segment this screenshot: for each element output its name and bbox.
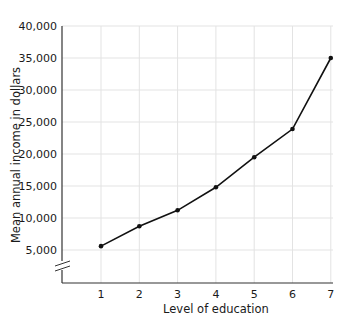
x-tick-label: 3 xyxy=(174,288,181,301)
y-tick-label: 35,000 xyxy=(19,52,58,65)
axis-break-icon xyxy=(52,261,72,271)
x-axis-title: Level of education xyxy=(163,302,269,316)
y-tick-label: 15,000 xyxy=(19,180,58,193)
x-tick-label: 6 xyxy=(289,288,296,301)
data-point xyxy=(290,127,295,132)
data-point xyxy=(329,56,334,61)
x-tick-label: 7 xyxy=(327,288,334,301)
x-tick-label: 4 xyxy=(212,288,219,301)
data-point xyxy=(214,185,219,190)
y-tick-label: 30,000 xyxy=(19,84,58,97)
x-tick-label: 5 xyxy=(251,288,258,301)
y-tick-label: 5,000 xyxy=(26,244,58,257)
x-tick-label: 1 xyxy=(98,288,105,301)
y-axis-title: Mean annual income in dollars xyxy=(9,67,23,243)
y-tick-labels: 5,00010,00015,00020,00025,00030,00035,00… xyxy=(19,20,58,257)
data-point xyxy=(175,208,180,213)
y-tick-label: 40,000 xyxy=(19,20,58,33)
x-tick-labels: 1234567 xyxy=(98,288,335,301)
data-point xyxy=(99,244,104,249)
x-tick-label: 2 xyxy=(136,288,143,301)
y-tick-label: 10,000 xyxy=(19,212,58,225)
y-tick-label: 20,000 xyxy=(19,148,58,161)
data-point xyxy=(252,155,257,160)
line-chart: 5,00010,00015,00020,00025,00030,00035,00… xyxy=(0,0,351,326)
data-point xyxy=(137,224,142,229)
y-tick-label: 25,000 xyxy=(19,116,58,129)
